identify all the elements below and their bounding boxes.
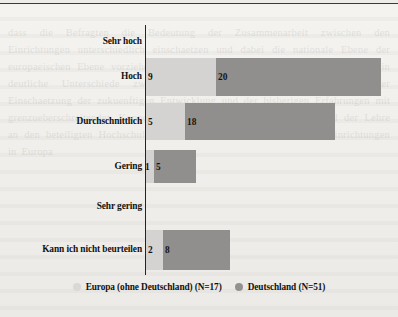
chart-row: Kann ich nicht beurteilen 2 8 xyxy=(0,230,398,270)
bar-group-durchschnittlich: 5 18 xyxy=(146,103,335,140)
circle-marker-icon xyxy=(73,283,81,291)
category-label-kann-ich-nicht-beurteilen: Kann ich nicht beurteilen xyxy=(0,244,142,255)
bar-value-label-europa: 1 xyxy=(145,162,150,172)
bar-segment-deutschland: 8 xyxy=(163,230,230,270)
legend-item-deutschland: Deutschland (N=51) xyxy=(235,282,326,292)
chart-row: Durchschnittlich 5 18 xyxy=(0,103,398,140)
bar-segment-europa: 5 xyxy=(146,103,185,140)
legend-label-deutschland: Deutschland (N=51) xyxy=(248,282,326,292)
chart-legend: Europa (ohne Deutschland) (N=17) Deutsch… xyxy=(0,282,398,292)
bar-group-hoch: 9 20 xyxy=(146,58,381,96)
legend-label-europa: Europa (ohne Deutschland) (N=17) xyxy=(86,282,222,292)
bar-value-label-deutschland: 8 xyxy=(165,245,170,255)
circle-marker-icon xyxy=(235,283,243,291)
category-label-hoch: Hoch xyxy=(0,71,142,82)
chart-row: Hoch 9 20 xyxy=(0,58,398,96)
bar-group-kann-ich-nicht-beurteilen: 2 8 xyxy=(146,230,230,270)
bar-segment-europa: 2 xyxy=(146,230,163,270)
category-label-gering: Gering xyxy=(0,161,142,172)
bar-segment-deutschland: 5 xyxy=(154,150,196,183)
bar-segment-deutschland: 18 xyxy=(185,103,335,140)
chart-row: Sehr gering xyxy=(0,190,398,223)
bar-segment-europa: 9 xyxy=(146,58,216,96)
bar-segment-europa: 1 xyxy=(146,150,154,183)
chart-row: Gering 1 5 xyxy=(0,150,398,183)
bar-value-label-deutschland: 5 xyxy=(156,162,161,172)
legend-item-europa: Europa (ohne Deutschland) (N=17) xyxy=(73,282,222,292)
chart-row: Sehr hoch xyxy=(0,25,398,58)
category-label-sehr-hoch: Sehr hoch xyxy=(0,36,142,47)
category-label-sehr-gering: Sehr gering xyxy=(0,201,142,212)
bar-value-label-europa: 5 xyxy=(148,117,153,127)
bar-value-label-europa: 2 xyxy=(148,245,153,255)
bar-value-label-deutschland: 20 xyxy=(218,72,227,82)
bar-segment-deutschland: 20 xyxy=(216,58,381,96)
bar-group-gering: 1 5 xyxy=(146,150,196,183)
bar-value-label-deutschland: 18 xyxy=(187,117,196,127)
stacked-bar-chart: Sehr hoch Hoch 9 20 Durchschnittlich 5 1… xyxy=(0,0,398,317)
category-label-durchschnittlich: Durchschnittlich xyxy=(0,116,142,127)
bar-value-label-europa: 9 xyxy=(148,72,153,82)
